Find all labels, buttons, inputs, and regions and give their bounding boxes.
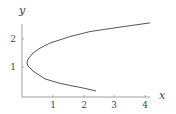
x-axis-label: x <box>159 89 166 102</box>
y-tick-label-2: 2 <box>10 34 16 44</box>
curve-line <box>27 23 150 91</box>
x-tick-label-1: 1 <box>50 100 56 110</box>
chart: 1 2 3 4 1 2 x y <box>0 0 176 114</box>
y-tick-label-1: 1 <box>10 62 16 72</box>
x-tick-label-3: 3 <box>111 100 117 110</box>
x-tick-label-4: 4 <box>142 100 148 110</box>
y-axis-label: y <box>18 4 26 17</box>
x-tick-label-2: 2 <box>81 100 87 110</box>
